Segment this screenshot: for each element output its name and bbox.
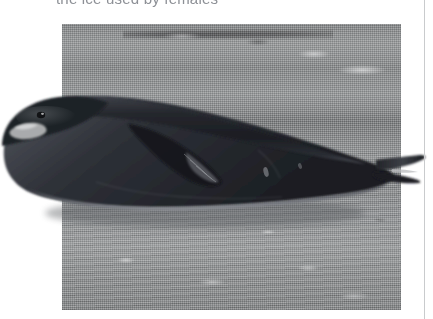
halftone-grain bbox=[62, 24, 401, 310]
document-page: the ice used by females bbox=[0, 0, 433, 319]
photo-caption: the ice used by females bbox=[56, 0, 218, 7]
seal-eye-glint bbox=[41, 113, 44, 115]
vertical-page-rule bbox=[424, 0, 425, 319]
seal-muzzle bbox=[10, 123, 47, 139]
seal-whiskers bbox=[14, 124, 38, 129]
caption-clip: the ice used by females bbox=[0, 0, 433, 9]
seal-photograph bbox=[62, 24, 401, 310]
seal-eye bbox=[37, 112, 45, 118]
